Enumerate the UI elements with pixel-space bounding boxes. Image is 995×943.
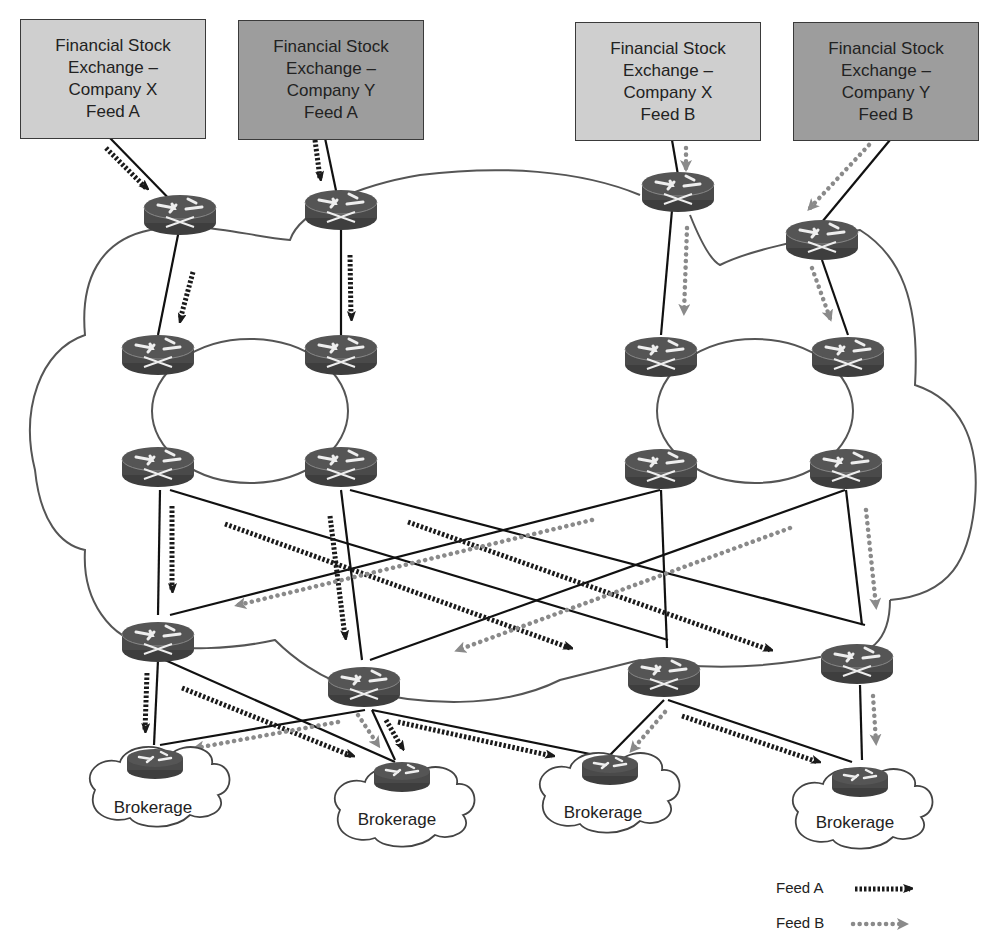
router-icon	[812, 337, 884, 377]
router-icon	[122, 622, 194, 662]
source-label-line: Feed B	[859, 104, 914, 126]
router-icon	[305, 190, 377, 230]
source-label-line: Feed B	[641, 104, 696, 126]
source-company-x-feed-a: Financial Stock Exchange – Company X Fee…	[20, 19, 206, 139]
brokerage-routers	[127, 749, 888, 797]
router-icon	[374, 762, 430, 792]
brokerage-label: Brokerage	[342, 810, 452, 830]
source-label-line: Financial Stock	[828, 38, 943, 60]
source-label-line: Exchange –	[841, 60, 931, 82]
brokerage-label: Brokerage	[800, 813, 910, 833]
router-icon	[144, 195, 216, 235]
physical-links	[110, 138, 890, 762]
source-company-y-feed-a: Financial Stock Exchange – Company Y Fee…	[238, 20, 424, 140]
source-label-line: Exchange –	[623, 60, 713, 82]
router-icon	[582, 755, 638, 785]
source-label-line: Company X	[624, 82, 713, 104]
router-icon	[127, 749, 183, 779]
router-icon	[786, 220, 858, 260]
legend-label: Feed A	[776, 879, 824, 896]
legend-feed-b: Feed B	[776, 914, 824, 931]
router-icon	[625, 337, 697, 377]
source-company-y-feed-b: Financial Stock Exchange – Company Y Fee…	[793, 22, 979, 141]
source-label-line: Financial Stock	[55, 35, 170, 57]
source-label-line: Company X	[69, 79, 158, 101]
router-icon	[305, 335, 377, 375]
source-label-line: Company Y	[842, 82, 931, 104]
brokerage-clouds	[90, 747, 933, 849]
feed-a-flows	[106, 140, 818, 762]
router-icon	[628, 657, 700, 697]
brokerage-label: Brokerage	[98, 798, 208, 818]
source-label-line: Exchange –	[286, 58, 376, 80]
router-icon	[832, 767, 888, 797]
core-routers	[122, 172, 893, 707]
source-label-line: Company Y	[287, 80, 376, 102]
legend-label: Feed B	[776, 914, 824, 931]
router-icon	[642, 172, 714, 212]
source-label-line: Feed A	[86, 101, 140, 123]
legend-feed-a: Feed A	[776, 879, 824, 896]
router-icon	[328, 667, 400, 707]
network-cloud-left	[30, 170, 640, 702]
router-icon	[305, 447, 377, 487]
router-icon	[625, 449, 697, 489]
router-icon	[122, 447, 194, 487]
source-label-line: Exchange –	[68, 57, 158, 79]
network-cloud-right	[640, 215, 976, 667]
source-label-line: Feed A	[304, 102, 358, 124]
source-label-line: Financial Stock	[273, 36, 388, 58]
source-company-x-feed-b: Financial Stock Exchange – Company X Fee…	[575, 22, 761, 141]
brokerage-label: Brokerage	[548, 803, 658, 823]
router-icon	[122, 335, 194, 375]
router-icon	[821, 644, 893, 684]
router-icon	[810, 449, 882, 489]
source-label-line: Financial Stock	[610, 38, 725, 60]
